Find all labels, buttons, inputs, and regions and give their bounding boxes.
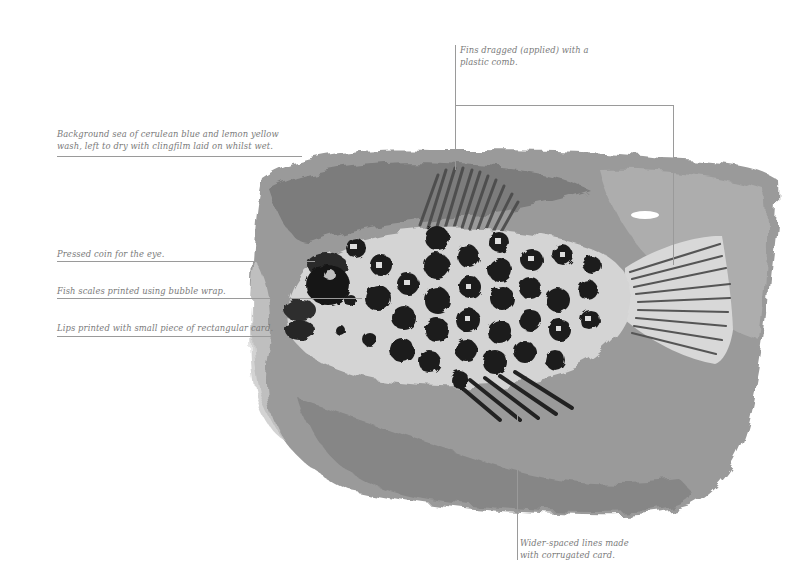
annotation-fins-top-line1: Fins dragged (applied) with a — [460, 44, 589, 56]
annotation-lips-line1: Lips printed with small piece of rectang… — [57, 322, 273, 334]
leader-line-eye — [57, 261, 315, 262]
leader-line-fins-top-horizontal — [455, 105, 674, 106]
annotation-fins-top: Fins dragged (applied) with a plastic co… — [460, 44, 589, 68]
annotation-fins-bottom-line1: Wider-spaced lines made — [520, 537, 629, 549]
leader-line-lips — [57, 336, 289, 337]
annotation-scales: Fish scales printed using bubble wrap. — [57, 285, 226, 297]
leader-line-background — [57, 156, 302, 157]
leader-line-fins-top-vertical — [455, 45, 456, 170]
annotation-eye-line1: Pressed coin for the eye. — [57, 248, 165, 260]
annotation-fins-bottom-line2: with corrugated card. — [520, 549, 629, 561]
annotation-lips: Lips printed with small piece of rectang… — [57, 322, 273, 334]
annotation-eye: Pressed coin for the eye. — [57, 248, 165, 260]
annotation-fins-bottom: Wider-spaced lines made with corrugated … — [520, 537, 629, 561]
annotation-scales-line1: Fish scales printed using bubble wrap. — [57, 285, 226, 297]
leader-line-fins-bottom — [517, 412, 518, 560]
annotation-background-line2: wash, left to dry with clingfilm laid on… — [57, 140, 279, 152]
annotation-background: Background sea of cerulean blue and lemo… — [57, 128, 279, 152]
leader-line-fins-tail-vertical — [673, 105, 674, 265]
annotation-fins-top-line2: plastic comb. — [460, 56, 589, 68]
leader-line-scales — [57, 298, 362, 299]
white-speck — [631, 211, 659, 219]
annotation-background-line1: Background sea of cerulean blue and lemo… — [57, 128, 279, 140]
